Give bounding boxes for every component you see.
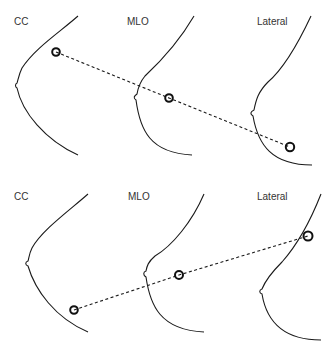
breast-outline-mlo [134, 16, 194, 155]
view-label-lateral: Lateral [257, 191, 288, 202]
bottom-panel: CC MLO Lateral [14, 191, 321, 340]
breast-outline-mlo [144, 194, 204, 332]
lesion-marker-lateral [286, 143, 294, 151]
view-label-cc: CC [14, 191, 28, 202]
view-label-lateral: Lateral [257, 16, 288, 27]
diagram-canvas: CC MLO Lateral CC MLO Lateral [0, 0, 336, 351]
breast-outline-cc [16, 16, 79, 155]
breast-outline-lateral [251, 16, 312, 165]
breast-outline-lateral [260, 194, 321, 340]
lesion-marker-lateral [304, 232, 313, 241]
view-label-mlo: MLO [127, 16, 149, 27]
view-label-mlo: MLO [128, 191, 150, 202]
triangulation-line [74, 236, 308, 310]
mammography-triangulation-diagram: CC MLO Lateral CC MLO Lateral [0, 0, 336, 351]
view-label-cc: CC [14, 16, 28, 27]
breast-outline-cc [26, 194, 88, 332]
top-panel: CC MLO Lateral [14, 16, 312, 165]
